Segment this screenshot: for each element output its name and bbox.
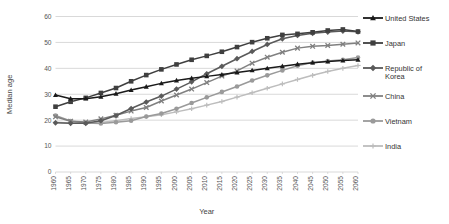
data-point <box>356 29 361 34</box>
x-tick-label-2020: 2020 <box>231 176 238 191</box>
legend-label: Japan <box>385 39 405 48</box>
x-tick-label-2055: 2055 <box>337 176 344 191</box>
legend-item-india[interactable]: India <box>363 142 402 151</box>
data-point <box>325 28 330 33</box>
legend-item-republic-of-korea[interactable]: Republic ofKorea <box>363 64 423 82</box>
data-point <box>249 49 255 55</box>
data-point <box>235 45 240 50</box>
legend-item-china[interactable]: China <box>363 92 405 101</box>
data-point <box>114 86 119 91</box>
series-china <box>53 41 360 125</box>
y-tick-label-50: 50 <box>44 39 52 46</box>
x-axis-labels-group: 1960196519701975198019851990199520002005… <box>50 172 360 191</box>
data-point <box>265 73 270 78</box>
legend-label: Vietnam <box>385 117 412 126</box>
data-point <box>265 36 270 41</box>
data-point <box>234 95 239 100</box>
data-point <box>174 106 179 111</box>
legend-swatch-marker <box>370 118 375 123</box>
x-tick-label-1965: 1965 <box>65 176 72 191</box>
y-tick-label-20: 20 <box>44 117 52 124</box>
x-tick-label-2030: 2030 <box>261 176 268 191</box>
data-point <box>174 62 179 67</box>
y-tick-label-60: 60 <box>44 13 52 20</box>
legend-label: United States <box>385 14 430 23</box>
data-point <box>220 90 225 95</box>
x-tick-label-2035: 2035 <box>276 176 283 191</box>
x-tick-label-2040: 2040 <box>292 176 299 191</box>
y-tick-label-30: 30 <box>44 91 52 98</box>
data-point <box>129 79 134 84</box>
data-point <box>219 99 224 104</box>
data-point <box>159 67 164 72</box>
legend-label: India <box>385 142 402 151</box>
data-point <box>295 77 300 82</box>
x-tick-label-1960: 1960 <box>50 176 57 191</box>
gridlines-group: 0102030405060 <box>44 13 358 176</box>
data-point <box>250 78 255 83</box>
x-tick-label-2005: 2005 <box>186 176 193 191</box>
legend-swatch-marker <box>370 143 376 148</box>
data-point <box>144 114 149 119</box>
x-tick-label-2050: 2050 <box>322 176 329 191</box>
legend-item-vietnam[interactable]: Vietnam <box>363 117 412 126</box>
data-point <box>341 27 346 32</box>
x-tick-label-2000: 2000 <box>171 176 178 191</box>
data-point <box>234 56 240 62</box>
data-point <box>310 30 315 35</box>
data-point <box>280 82 285 87</box>
data-point <box>204 54 209 59</box>
data-point <box>204 95 209 100</box>
data-point <box>189 57 194 62</box>
data-point <box>189 106 194 111</box>
series-vietnam <box>53 55 360 126</box>
data-point <box>53 120 59 126</box>
x-tick-label-2045: 2045 <box>307 176 314 191</box>
data-point <box>340 66 345 71</box>
x-tick-label-1975: 1975 <box>95 176 102 191</box>
data-point <box>114 120 119 125</box>
data-point <box>295 32 300 37</box>
x-tick-label-1985: 1985 <box>125 176 132 191</box>
data-point <box>280 33 285 38</box>
median-age-line-chart: 0102030405060196019651970197519801985199… <box>0 0 449 224</box>
x-axis-title: Year <box>199 207 215 216</box>
data-point <box>235 84 240 89</box>
legend-label: China <box>385 92 405 101</box>
data-point <box>129 118 134 123</box>
y-tick-label-0: 0 <box>48 168 52 175</box>
chart-canvas: 0102030405060196019651970197519801985199… <box>0 0 449 224</box>
legend-item-japan[interactable]: Japan <box>363 39 405 48</box>
series-line <box>56 57 359 123</box>
legend-swatch-marker <box>370 65 377 72</box>
x-tick-label-2025: 2025 <box>246 176 253 191</box>
data-point <box>144 73 149 78</box>
x-tick-label-1995: 1995 <box>155 176 162 191</box>
legend-item-united-states[interactable]: United States <box>363 14 430 23</box>
x-tick-label-2010: 2010 <box>201 176 208 191</box>
x-tick-label-1980: 1980 <box>110 176 117 191</box>
data-point <box>325 69 330 74</box>
legend: United StatesJapanRepublic ofKoreaChinaV… <box>363 14 430 151</box>
y-tick-label-10: 10 <box>44 142 52 149</box>
data-point <box>159 111 164 116</box>
data-point <box>265 86 270 91</box>
data-point <box>53 92 58 97</box>
data-point <box>189 101 194 106</box>
data-point <box>174 86 180 92</box>
data-point <box>355 63 360 68</box>
y-axis-title: Median age <box>5 75 14 114</box>
data-point <box>280 68 285 73</box>
x-tick-label-1990: 1990 <box>140 176 147 191</box>
data-point <box>204 103 209 108</box>
data-point <box>143 99 149 105</box>
x-tick-label-1970: 1970 <box>80 176 87 191</box>
legend-label: Korea <box>385 72 406 81</box>
data-point <box>310 73 315 78</box>
x-tick-label-2015: 2015 <box>216 176 223 191</box>
legend-swatch-marker <box>370 40 375 45</box>
y-tick-label-40: 40 <box>44 65 52 72</box>
x-tick-label-2060: 2060 <box>352 176 359 191</box>
data-point <box>220 49 225 54</box>
data-point <box>250 40 255 45</box>
